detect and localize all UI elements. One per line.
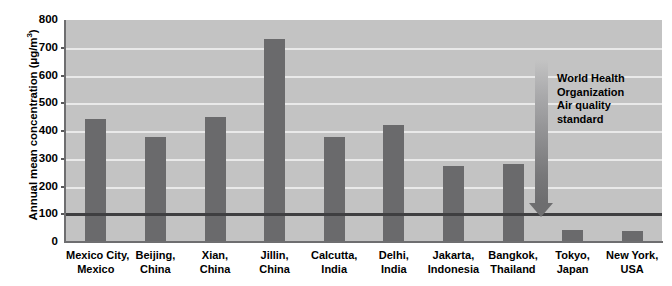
x-axis-label: Jillin,China (245, 248, 305, 276)
bar (264, 39, 285, 242)
y-tick-label: 800 (22, 14, 58, 26)
who-threshold-line (66, 213, 662, 216)
bar (503, 164, 524, 242)
x-axis-label-line1: Calcutta, (304, 248, 364, 262)
x-axis-label: Xian,China (185, 248, 245, 276)
x-axis-category-labels: Mexico City,MexicoBeijing,ChinaXian,Chin… (66, 248, 662, 286)
y-tick-label: 300 (22, 153, 58, 165)
bar (205, 117, 226, 242)
arrow-shaft (535, 60, 548, 203)
bar (383, 125, 404, 242)
x-axis-label: Delhi,India (364, 248, 424, 276)
y-tick-label: 400 (22, 125, 58, 137)
x-axis-label-line2: India (364, 262, 424, 276)
bar-series (66, 20, 662, 242)
plot-area (66, 20, 662, 242)
x-axis-label-line1: Jillin, (245, 248, 305, 262)
x-axis-label: Mexico City,Mexico (66, 248, 126, 276)
y-tick-label: 100 (22, 209, 58, 221)
x-axis-label-line1: Beijing, (126, 248, 186, 262)
y-tick-label: 500 (22, 98, 58, 110)
bar (85, 119, 106, 242)
x-axis-label-line1: Bangkok, (483, 248, 543, 262)
x-axis-label-line2: Mexico (66, 262, 126, 276)
who-standard-annotation: World HealthOrganizationAir qualitystand… (557, 72, 667, 126)
x-axis-label: Tokyo,Japan (543, 248, 603, 276)
x-axis-label-line1: Xian, (185, 248, 245, 262)
x-axis-label-line1: Jakarta, (424, 248, 484, 262)
y-axis-tick-labels: 0100200300400500600700800 (22, 0, 58, 286)
y-tick-label: 0 (22, 236, 58, 248)
arrow-head (529, 203, 553, 217)
x-axis-line (66, 241, 663, 243)
who-annotation-line: World Health (557, 72, 667, 86)
y-tick-label: 600 (22, 70, 58, 82)
bar (443, 166, 464, 242)
x-axis-label: Calcutta,India (304, 248, 364, 276)
x-axis-label-line2: Japan (543, 262, 603, 276)
who-annotation-line: Air quality (557, 99, 667, 113)
x-axis-label: Jakarta,Indonesia (424, 248, 484, 276)
air-quality-bar-chart: Annual mean concentration (μg/m3) 010020… (0, 0, 672, 286)
who-annotation-line: standard (557, 113, 667, 127)
who-annotation-line: Organization (557, 86, 667, 100)
x-axis-label-line2: China (185, 262, 245, 276)
x-axis-label: New York,USA (602, 248, 662, 276)
bar (324, 137, 345, 242)
bar (145, 137, 166, 242)
x-axis-label-line2: Indonesia (424, 262, 484, 276)
x-axis-label-line1: Tokyo, (543, 248, 603, 262)
x-axis-label-line2: China (126, 262, 186, 276)
x-axis-label: Beijing,China (126, 248, 186, 276)
x-axis-label-line1: New York, (602, 248, 662, 262)
x-axis-label-line2: USA (602, 262, 662, 276)
y-tick-label: 200 (22, 181, 58, 193)
x-axis-label-line1: Delhi, (364, 248, 424, 262)
x-axis-label-line2: Thailand (483, 262, 543, 276)
x-axis-label-line2: China (245, 262, 305, 276)
x-axis-label-line1: Mexico City, (66, 248, 126, 262)
x-axis-label-line2: India (304, 262, 364, 276)
y-tick-label: 700 (22, 42, 58, 54)
x-axis-label: Bangkok,Thailand (483, 248, 543, 276)
